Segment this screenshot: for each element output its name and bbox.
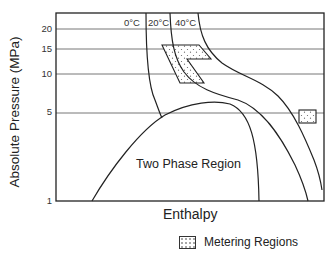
y-tick-5: 5 <box>32 106 52 117</box>
metering-region-lower <box>299 110 316 123</box>
two-phase-dome <box>92 102 259 201</box>
y-tick-10: 10 <box>32 68 52 79</box>
isotherm-label-40c: 40°C <box>175 17 196 28</box>
isotherm-label-20c: 20°C <box>148 17 169 28</box>
metering-region-upper <box>162 45 211 83</box>
y-tick-15: 15 <box>32 43 52 54</box>
x-axis-label: Enthalpy <box>163 206 217 222</box>
isotherm-label-0c: 0°C <box>124 17 140 28</box>
stipple-swatch-icon <box>179 236 196 249</box>
two-phase-region-label: Two Phase Region <box>136 157 241 171</box>
legend-label: Metering Regions <box>204 235 298 249</box>
plot-frame <box>56 13 324 201</box>
y-axis-label: Absolute Pressure (MPa) <box>7 37 22 188</box>
y-tick-1: 1 <box>32 195 52 206</box>
legend: Metering Regions <box>179 235 298 249</box>
y-tick-20: 20 <box>32 23 52 34</box>
